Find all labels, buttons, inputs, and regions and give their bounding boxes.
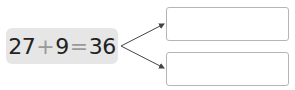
answer-box-top[interactable] xyxy=(166,7,289,41)
answer-box-bottom[interactable] xyxy=(166,52,289,86)
